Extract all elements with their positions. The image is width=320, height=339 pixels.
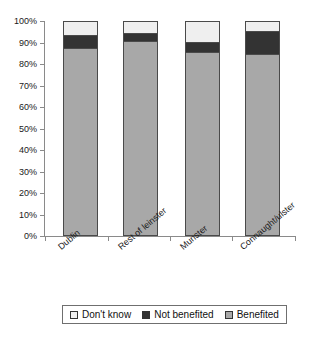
legend-swatch-icon — [225, 311, 233, 319]
y-axis-tick-label: 80% — [19, 60, 37, 69]
legend-swatch-icon — [142, 311, 150, 319]
bar-munster[interactable] — [185, 21, 220, 236]
bar-segment-dk[interactable] — [245, 21, 280, 32]
chart-legend: Don't knowNot benefitedBenefited — [62, 305, 287, 324]
bar-segment-b[interactable] — [185, 53, 220, 236]
y-axis-tick-label: 20% — [19, 189, 37, 198]
bar-connaught-ulster[interactable] — [245, 21, 280, 236]
x-axis-tick-mark — [170, 237, 171, 241]
bar-dublin[interactable] — [63, 21, 98, 236]
x-axis: DublinRest of leinsterMunsterConnaught/u… — [0, 236, 320, 306]
y-axis-tick-label: 30% — [19, 167, 37, 176]
y-axis-tick-label: 100% — [14, 17, 37, 26]
x-axis-tick-mark — [295, 237, 296, 241]
legend-label: Don't know — [82, 310, 131, 320]
legend-label: Benefited — [237, 310, 279, 320]
x-axis-tick-mark — [45, 237, 46, 241]
y-axis-tick-label: 90% — [19, 38, 37, 47]
bar-segment-nb[interactable] — [245, 32, 280, 56]
stacked-bar-chart: 100%90%80%70%60%50%40%30%20%10%0% Dublin… — [0, 0, 320, 339]
legend-label: Not benefited — [154, 310, 214, 320]
y-axis-tick-label: 10% — [19, 210, 37, 219]
y-axis: 100%90%80%70%60%50%40%30%20%10%0% — [0, 14, 44, 244]
legend-swatch-icon — [70, 311, 78, 319]
x-axis-tick-mark — [108, 237, 109, 241]
legend-item-not-benefited[interactable]: Not benefited — [142, 310, 214, 320]
y-axis-tick-label: 40% — [19, 146, 37, 155]
bar-segment-nb[interactable] — [185, 43, 220, 54]
x-axis-tick-mark — [232, 237, 233, 241]
bar-segment-b[interactable] — [245, 55, 280, 236]
y-axis-tick-label: 50% — [19, 124, 37, 133]
y-axis-tick-label: 60% — [19, 103, 37, 112]
bar-segment-b[interactable] — [123, 42, 158, 236]
bar-segment-dk[interactable] — [123, 21, 158, 34]
plot-area — [45, 21, 295, 236]
legend-item-don-t-know[interactable]: Don't know — [70, 310, 131, 320]
bar-segment-nb[interactable] — [123, 34, 158, 43]
bar-segment-dk[interactable] — [185, 21, 220, 43]
bar-rest-of-leinster[interactable] — [123, 21, 158, 236]
bar-segment-dk[interactable] — [63, 21, 98, 36]
bar-segment-b[interactable] — [63, 49, 98, 236]
y-axis-tick-label: 70% — [19, 81, 37, 90]
legend-item-benefited[interactable]: Benefited — [225, 310, 279, 320]
bar-segment-nb[interactable] — [63, 36, 98, 49]
